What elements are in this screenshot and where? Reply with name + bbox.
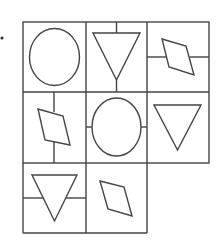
puzzle-grid <box>0 0 223 246</box>
cell-2-3-triangle <box>154 105 201 150</box>
cell-1-1-circle <box>30 29 80 86</box>
cell-1-2-triangle <box>93 22 140 92</box>
cell-3-1-triangle <box>23 175 86 221</box>
cell-3-2-parallelogram <box>100 181 132 216</box>
cell-2-2-circle <box>86 98 147 156</box>
cell-2-1-parallelogram <box>38 92 70 163</box>
bullet-marker <box>0 36 3 39</box>
cell-1-3-parallelogram <box>147 39 209 75</box>
grid-lines <box>23 22 209 233</box>
